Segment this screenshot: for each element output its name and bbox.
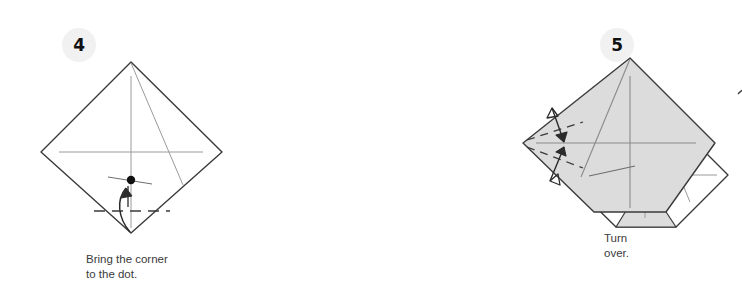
step-4-diagram bbox=[0, 0, 262, 250]
step-6-diagram bbox=[480, 0, 742, 250]
origami-step-5: 5 Turn over. bbox=[262, 0, 480, 288]
origami-step-4: 4 Bring the corner to the dot. bbox=[0, 0, 262, 288]
instruction-sheet: 4 Bring the corner to the dot. 5 bbox=[0, 0, 742, 288]
paper-outline-pentagon bbox=[523, 58, 715, 212]
step-4-caption: Bring the corner to the dot. bbox=[86, 252, 168, 281]
origami-step-6: 6 bbox=[480, 0, 742, 288]
reference-dot bbox=[127, 176, 135, 184]
